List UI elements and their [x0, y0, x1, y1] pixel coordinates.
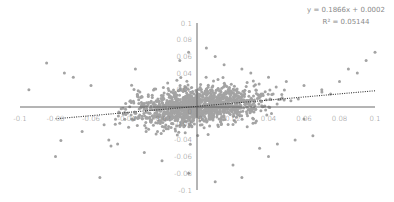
data-point [220, 123, 223, 126]
data-point [311, 134, 314, 137]
data-point [63, 72, 66, 75]
data-point [347, 67, 350, 70]
data-point [162, 86, 165, 89]
data-point [252, 80, 255, 83]
data-point [140, 101, 143, 104]
data-point [167, 87, 170, 90]
data-point [136, 124, 139, 127]
data-point [174, 128, 177, 131]
data-point [230, 83, 233, 86]
data-point [167, 93, 170, 96]
data-point [253, 85, 256, 88]
data-point [199, 123, 202, 126]
data-point [203, 119, 206, 122]
data-point [172, 91, 175, 94]
data-point [228, 105, 231, 108]
data-point [180, 116, 183, 119]
data-point [249, 111, 252, 114]
data-point [204, 97, 207, 100]
data-point [72, 76, 75, 79]
y-tick-label: 0 [188, 108, 192, 116]
data-point [241, 93, 244, 96]
data-point [145, 130, 148, 133]
x-tick-label: 0.02 [225, 115, 241, 123]
data-point [242, 90, 245, 93]
data-point [240, 176, 243, 179]
data-point [157, 100, 160, 103]
data-point [265, 98, 268, 101]
data-point [199, 83, 202, 86]
y-tick-label: -0.06 [174, 153, 192, 161]
data-point [152, 103, 155, 106]
data-point [150, 100, 153, 103]
trendline-equation: y = 0.1866x + 0.0002 [307, 6, 385, 14]
data-point [374, 51, 377, 54]
data-point [255, 119, 258, 122]
data-point [294, 138, 297, 141]
data-point [243, 95, 246, 98]
data-point [197, 97, 200, 100]
data-point [225, 93, 228, 96]
data-point [173, 94, 176, 97]
data-point [267, 76, 270, 79]
data-point [144, 121, 147, 124]
data-point [54, 155, 57, 158]
data-point [228, 86, 231, 89]
data-point [214, 180, 217, 183]
data-point [246, 125, 249, 128]
data-point [248, 90, 251, 93]
data-point [232, 163, 235, 166]
data-point [247, 103, 250, 106]
data-point [203, 116, 206, 119]
x-tick-label: 0 [198, 115, 202, 123]
data-point [219, 89, 222, 92]
data-point [194, 101, 197, 104]
data-point [249, 72, 252, 75]
data-point [365, 59, 368, 62]
data-point [210, 89, 213, 92]
data-point [320, 88, 323, 91]
data-point [189, 96, 192, 99]
data-point [241, 118, 244, 121]
data-point [45, 62, 48, 65]
data-point [303, 84, 306, 87]
data-point [114, 123, 117, 126]
data-point [280, 93, 283, 96]
data-point [223, 63, 226, 66]
data-point [183, 100, 186, 103]
data-point [174, 101, 177, 104]
data-point [262, 105, 265, 108]
data-point [205, 108, 208, 111]
data-point [187, 103, 190, 106]
data-point [207, 133, 210, 136]
data-point [98, 176, 101, 179]
data-point [245, 85, 248, 88]
data-point [169, 104, 172, 107]
data-point [232, 88, 235, 91]
data-point [219, 103, 222, 106]
data-point [205, 76, 208, 79]
data-point [356, 72, 359, 75]
scatter-chart: -0.1-0.08-0.06-0.04-0.0200.020.040.060.0… [0, 0, 394, 202]
x-tick-label: 0.1 [369, 115, 380, 123]
data-point [223, 111, 226, 114]
data-point [222, 85, 225, 88]
data-point [258, 97, 261, 100]
data-point [177, 131, 180, 134]
data-point [204, 93, 207, 96]
data-point [200, 100, 203, 103]
data-point [289, 99, 292, 102]
data-point [257, 102, 260, 105]
data-point [156, 130, 159, 133]
data-point [268, 106, 271, 109]
data-point [214, 108, 217, 111]
data-point [258, 147, 261, 150]
data-point [143, 108, 146, 111]
data-point [90, 84, 93, 87]
data-point [214, 55, 217, 58]
data-point [259, 109, 262, 112]
data-point [205, 47, 208, 50]
data-point [215, 116, 218, 119]
data-point [138, 113, 141, 116]
data-point [219, 120, 222, 123]
